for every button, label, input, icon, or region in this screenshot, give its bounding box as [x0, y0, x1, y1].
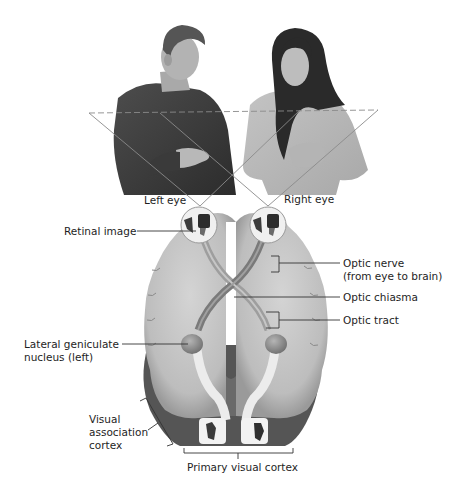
- lgn-right: [265, 334, 287, 354]
- right-eye-globe: [250, 207, 286, 243]
- visual-association-cortex-label-1: Visual: [89, 413, 120, 426]
- primary-visual-cortex-label: Primary visual cortex: [187, 461, 298, 474]
- visual-association-cortex-label-2: association: [89, 426, 148, 439]
- visual-association-cortex-label-3: cortex: [89, 439, 122, 452]
- optic-tract-label: Optic tract: [343, 314, 399, 327]
- right-eye-label: Right eye: [284, 193, 334, 206]
- diagram-artwork: [0, 0, 457, 490]
- optic-nerve-sublabel: (from eye to brain): [343, 270, 442, 283]
- lgn-label: Lateral geniculate: [24, 338, 119, 351]
- optic-nerve-label: Optic nerve: [343, 257, 404, 270]
- left-eye-globe: [181, 207, 217, 243]
- optic-chiasma-label: Optic chiasma: [343, 291, 418, 304]
- visual-pathway-diagram: Left eye Right eye Retinal image Optic n…: [0, 0, 457, 490]
- retinal-image-label: Retinal image: [64, 225, 136, 238]
- left-eye-label: Left eye: [144, 194, 186, 207]
- man-illustration: [114, 25, 236, 195]
- lgn-sublabel: nucleus (left): [24, 351, 93, 364]
- brain-illustration: [143, 213, 327, 446]
